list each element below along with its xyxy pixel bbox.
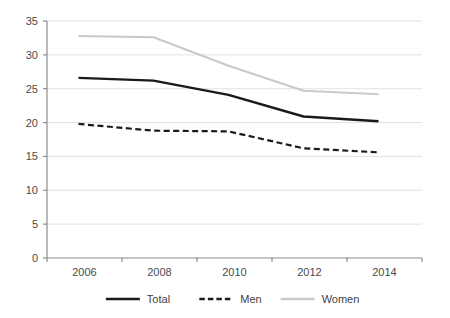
y-tick-labels: 05101520253035 [26, 15, 38, 264]
series-line-women [79, 36, 379, 94]
x-tick-labels: 20062008201020122014 [72, 266, 396, 278]
legend-label-total: Total [147, 293, 170, 305]
y-tick-label: 5 [32, 218, 38, 230]
series-lines [79, 36, 379, 152]
chart-canvas: 05101520253035 20062008201020122014 Tota… [0, 0, 450, 318]
gridlines [47, 21, 422, 224]
series-line-men [79, 124, 379, 152]
series-line-total [79, 78, 379, 121]
y-tick-label: 30 [26, 49, 38, 61]
x-tick-label: 2008 [147, 266, 171, 278]
line-chart: 05101520253035 20062008201020122014 Tota… [0, 0, 450, 318]
y-tick-label: 20 [26, 117, 38, 129]
legend-label-women: Women [322, 293, 360, 305]
x-tick-label: 2006 [72, 266, 96, 278]
y-tick-label: 15 [26, 150, 38, 162]
x-axis [47, 258, 422, 262]
chart-legend: TotalMenWomen [106, 293, 360, 305]
y-tick-label: 10 [26, 184, 38, 196]
x-tick-label: 2014 [372, 266, 396, 278]
x-tick-label: 2012 [297, 266, 321, 278]
x-tick-label: 2010 [222, 266, 246, 278]
y-tick-label: 25 [26, 83, 38, 95]
legend-label-men: Men [240, 293, 261, 305]
y-tick-label: 35 [26, 15, 38, 27]
y-axis [43, 21, 47, 258]
y-tick-label: 0 [32, 252, 38, 264]
